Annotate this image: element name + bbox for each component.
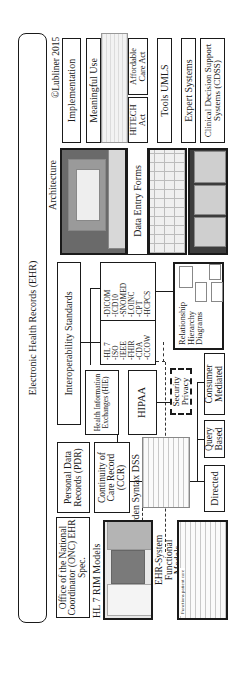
directed-box: Directed (204, 465, 225, 512)
meaningful-use-label: Meaningful Use (89, 58, 99, 123)
hipaa-box: HIPAA (128, 370, 157, 435)
connector (156, 291, 173, 292)
code-standards-list: -DICOM -ICD10 -SNOMED -LOINC -CPT -HCPCS (101, 279, 154, 321)
hl7-rim-label: HL 7 RIM Models (92, 544, 102, 618)
architecture-label: Architecture (48, 160, 58, 210)
directed-label: Directed (210, 471, 220, 505)
ehr-functional-image: Functions patient care (177, 520, 228, 620)
interoperability-standards-label: Interoperability Standards (64, 291, 74, 395)
hitech-act-box: HITECH Act (128, 97, 148, 143)
expert-systems-label: Expert Systems (184, 59, 194, 122)
tools-umls-label: Tools UMLS (160, 64, 170, 116)
messaging-standards-box: -HL 7 -ISO -IEEE -FHIR -CDA -CCOW (100, 320, 156, 365)
consumer-mediated-box: Consumer Mediated (204, 353, 225, 415)
arden-syntax-image (142, 437, 190, 508)
hl7-rim-image (103, 520, 153, 620)
dashed-connector (163, 342, 164, 362)
connector (81, 342, 90, 343)
connector (197, 382, 204, 383)
hie-label: Health Information Exchanges (HIE) (94, 371, 110, 434)
list-item: -CCOW (144, 335, 152, 360)
connector (157, 402, 170, 403)
relationship-diagram-box: Relationship Hierarchy Diagrams (173, 262, 224, 350)
query-based-box: Query Based (204, 420, 225, 458)
tools-umls-box: Tools UMLS (157, 38, 172, 143)
implementation-label: Implementation (67, 59, 77, 122)
ehr-diagram: Electronic Health Records (EHR) ©Lubline… (0, 0, 237, 680)
interoperability-standards-box: Interoperability Standards (57, 262, 81, 425)
ccr-box: Continuity of Care Record (CCR) (94, 442, 130, 513)
onc-label: Office of the National Coordinator (ONC)… (59, 518, 88, 617)
diagram-title: Electronic Health Records (EHR) (27, 261, 38, 396)
arden-syntax-label: Arden Syntax DSS (131, 454, 141, 530)
expert-systems-box: Expert Systems (181, 38, 196, 143)
cdss-screenshot (188, 148, 228, 255)
messaging-standards-list: -HL 7 -ISO -IEEE -FHIR -CDA -CCOW (101, 331, 154, 364)
pdr-box: Personal Data Records (PDR) (57, 442, 90, 513)
connector (197, 481, 204, 482)
hitech-act-label: HITECH Act (129, 98, 147, 142)
connector (90, 342, 100, 343)
consumer-mediated-label: Consumer Mediated (205, 354, 224, 414)
code-standards-box: -DICOM -ICD10 -SNOMED -LOINC -CPT -HCPCS (100, 262, 156, 322)
meaningful-use-screenshot (101, 33, 128, 143)
hie-box: Health Information Exchanges (HIE) (85, 370, 119, 435)
security-privacy-box: Security Privacy (170, 368, 192, 415)
functions-caption: Functions patient care (180, 568, 185, 616)
ccr-label: Continuity of Care Record (CCR) (98, 443, 127, 512)
security-privacy-label: Security Privacy (172, 370, 190, 413)
title-banner: Electronic Health Records (EHR) (18, 33, 47, 623)
data-entry-forms-image (148, 148, 187, 255)
connector (197, 439, 204, 440)
meaningful-use-box: Meaningful Use (86, 38, 101, 143)
query-based-label: Query Based (205, 421, 224, 457)
copyright-label: ©Lubliner 2015 (52, 37, 62, 98)
dashed-connector (156, 361, 165, 362)
affordable-care-act-box: Affordable Care Act (128, 38, 148, 95)
hipaa-label: HIPAA (137, 387, 148, 418)
onc-box: Office of the National Coordinator (ONC)… (56, 517, 90, 618)
connector (90, 289, 91, 365)
pdr-label: Personal Data Records (PDR) (64, 443, 83, 512)
cdss-label: Clinical Decision Support Systems (CDSS) (204, 39, 222, 142)
connector (90, 288, 100, 289)
architecture-image (60, 148, 127, 255)
relationship-diagram-label: Relationship Hierarchy Diagrams (178, 307, 204, 345)
cdss-box: Clinical Decision Support Systems (CDSS) (200, 38, 225, 143)
affordable-care-act-label: Affordable Care Act (129, 39, 147, 94)
list-item: -HCPCS (144, 283, 152, 317)
implementation-box: Implementation (62, 38, 81, 143)
connector (197, 382, 198, 482)
data-entry-forms-box: Data Entry Forms (127, 148, 148, 255)
data-entry-forms-label: Data Entry Forms (133, 165, 143, 237)
